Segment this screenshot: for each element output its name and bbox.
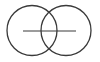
diagram-canvas <box>0 0 100 62</box>
overlapping-circles-diagram <box>0 0 100 62</box>
